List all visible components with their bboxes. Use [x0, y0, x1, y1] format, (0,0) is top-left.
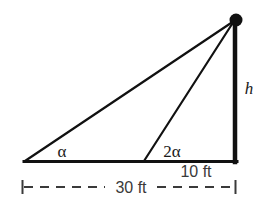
angle-alpha-label: α — [58, 142, 67, 161]
apex-point-dot — [230, 14, 243, 27]
angle-two-alpha-label: 2α — [163, 142, 181, 161]
figure-container: α 2α h 10 ft 30 ft — [0, 0, 264, 202]
hypotenuse-short-line — [144, 21, 234, 161]
height-h-label: h — [245, 79, 254, 98]
base-short-dimension-label: 10 ft — [180, 163, 212, 180]
base-long-dimension-label: 30 ft — [115, 179, 147, 196]
hypotenuse-long-line — [25, 21, 234, 161]
triangle-diagram: α 2α h 10 ft 30 ft — [0, 0, 264, 202]
